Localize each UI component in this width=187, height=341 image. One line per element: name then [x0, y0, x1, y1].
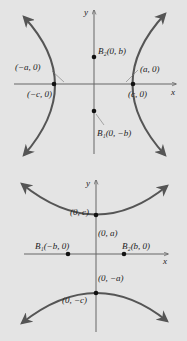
label-neg-a: (−a, 0)	[15, 62, 41, 72]
label-b1: B₁(0, −b)	[97, 128, 131, 138]
point-c	[94, 213, 99, 218]
point-b1	[66, 252, 71, 257]
leader-b1	[96, 114, 104, 125]
label-neg-c: (−c, 0)	[27, 89, 52, 99]
x-axis-label: x	[162, 256, 167, 266]
point-b1	[92, 109, 97, 114]
label-a: (a, 0)	[140, 64, 160, 74]
label-b2: B₂(b, 0)	[122, 241, 150, 251]
y-axis-label: y	[83, 7, 88, 17]
label-c: (c, 0)	[128, 89, 147, 99]
point-c	[131, 82, 136, 87]
left-branch-curve	[24, 17, 55, 155]
upper-branch-curve	[22, 184, 167, 215]
bottom-hyperbola-diagram: y x (0, c) (0, a) B₁(−b, 0) B₂(b, 0) (0,…	[22, 178, 168, 332]
top-hyperbola-diagram: y x B₂(0, b) (−a, 0) (a, 0) (−c, 0) (c, …	[14, 7, 176, 155]
label-c: (0, c)	[70, 207, 89, 217]
point-b2	[122, 252, 127, 257]
point-neg-c	[94, 291, 99, 296]
hyperbola-diagrams: y x B₂(0, b) (−a, 0) (a, 0) (−c, 0) (c, …	[0, 0, 187, 341]
point-neg-c	[52, 82, 57, 87]
label-b1: B₁(−b, 0)	[35, 241, 69, 251]
lower-branch-curve	[22, 293, 167, 323]
label-b2: B₂(0, b)	[98, 46, 126, 56]
label-neg-a: (0, −a)	[98, 273, 124, 283]
point-b2	[92, 55, 97, 60]
label-a: (0, a)	[98, 228, 118, 238]
y-axis-label: y	[85, 178, 90, 188]
x-axis-label: x	[170, 87, 175, 97]
label-neg-c: (0, −c)	[62, 295, 87, 305]
